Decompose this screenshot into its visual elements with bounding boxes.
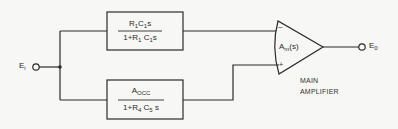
- input-label: Ei: [19, 62, 26, 71]
- top-block-numerator: R1C1s: [118, 20, 162, 29]
- output-label: E0: [369, 42, 378, 51]
- bottom-branch-out-wire: [183, 65, 279, 100]
- amplifier-gain-label: Am(s): [279, 43, 299, 52]
- amplifier-caption-line2: AMPLIFIER: [300, 88, 339, 95]
- inverting-input-sign: –: [278, 23, 282, 31]
- input-terminal-icon: [33, 64, 39, 70]
- top-block-denominator: 1+R1 C1s: [113, 34, 167, 43]
- bottom-block-box: [107, 80, 183, 119]
- junction-dot: [58, 65, 62, 69]
- amplifier-caption-line1: MAIN: [300, 77, 318, 84]
- output-terminal-icon: [359, 44, 365, 50]
- noninverting-input-sign: +: [279, 61, 283, 68]
- diagram-wires: [0, 0, 398, 129]
- bottom-block-denominator: 1+R4 C5 s: [113, 104, 169, 113]
- bottom-block-numerator: AOCC: [118, 87, 164, 96]
